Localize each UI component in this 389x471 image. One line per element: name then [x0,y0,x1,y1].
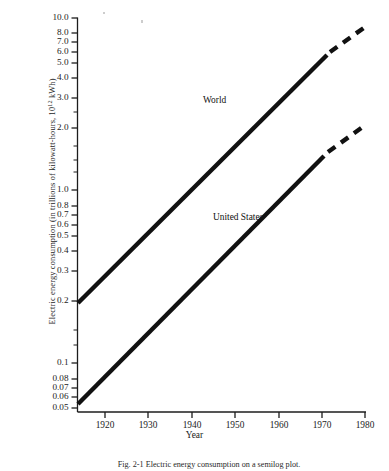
y-axis-tick-label: 1.0 [57,184,68,194]
y-axis-title-exponent: 12 [47,100,53,106]
y-axis-tick-label: 0.06 [52,391,68,401]
figure-caption: Fig. 2-1 Electric energy consumption on … [44,459,374,470]
x-axis-tick-label: 1940 [174,420,210,430]
y-axis-tick-label: 2.0 [57,122,68,132]
x-axis-tick-label: 1960 [261,420,297,430]
x-axis-tick-label: 1980 [347,420,383,430]
y-axis-tick-label: 7.0 [57,36,68,46]
y-axis-tick-label: 0.7 [57,209,68,219]
series-label-world: World [203,95,226,105]
y-axis-tick-label: 6.0 [57,46,68,56]
x-axis-tick-marks [105,412,365,418]
y-axis-tick-label: 3.0 [57,92,68,102]
x-axis-tick-label: 1920 [87,420,123,430]
series-world-solid [78,55,327,303]
y-axis-tick-label: 0.05 [52,402,68,412]
y-axis-tick-label: 4.0 [57,72,68,82]
y-axis-tick-label: 0.4 [57,245,68,255]
y-axis-tick-label: 0.2 [57,295,68,305]
series-label-united-states: United States [213,212,263,222]
series-united-states [78,126,364,404]
x-axis-title: Year [0,430,389,440]
y-axis-tick-label: 0.3 [57,265,68,275]
y-axis-title: Electric energy consumption (in trillion… [47,31,58,371]
y-axis-tick-label: 5.0 [57,57,68,67]
y-axis-tick-label: 0.5 [57,230,68,240]
x-axis-tick-label: 1970 [304,420,340,430]
figure-semilog-energy-chart: Electric energy consumption (in trillion… [0,0,389,471]
scan-speck [103,12,105,14]
y-axis-tick-label: 10.0 [52,12,68,22]
x-axis-tick-label: 1950 [217,420,253,430]
y-axis-tick-label: 0.6 [57,219,68,229]
series-world-extrapolation-dashed [330,27,365,52]
series-united-states-solid [78,156,324,404]
scan-speck [141,20,143,23]
x-axis-tick-label: 1930 [130,420,166,430]
series-united-states-extrapolation-dashed [328,126,364,152]
y-axis-tick-marks [72,18,78,408]
y-axis-tick-label: 0.1 [57,357,68,367]
